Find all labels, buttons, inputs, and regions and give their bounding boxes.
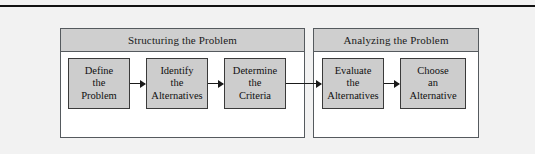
process-box-line: the bbox=[93, 77, 106, 89]
arrow-determine-to-evaluate bbox=[286, 83, 321, 84]
process-box-line: Criteria bbox=[239, 90, 271, 102]
process-box-line: Define bbox=[85, 65, 114, 77]
process-box-define-the-problem: Define the Problem bbox=[68, 58, 130, 109]
process-box-line: Alternatives bbox=[327, 90, 378, 102]
process-box-line: Alternative bbox=[409, 90, 456, 102]
process-box-choose-an-alternative: Choose an Alternative bbox=[400, 58, 466, 109]
process-box-determine-the-criteria: Determine the Criteria bbox=[224, 58, 286, 109]
process-box-identify-the-alternatives: Identify the Alternatives bbox=[146, 58, 208, 109]
panel-header-structuring: Structuring the Problem bbox=[61, 29, 304, 52]
process-box-line: the bbox=[249, 77, 262, 89]
process-box-line: the bbox=[347, 77, 360, 89]
arrow-define-to-identify bbox=[130, 83, 145, 84]
panel-header-analyzing: Analyzing the Problem bbox=[314, 29, 478, 52]
top-divider-rule bbox=[0, 5, 535, 7]
process-box-evaluate-the-alternatives: Evaluate the Alternatives bbox=[322, 58, 384, 109]
process-box-line: Determine bbox=[233, 65, 277, 77]
panel-title-analyzing: Analyzing the Problem bbox=[343, 34, 448, 46]
process-box-line: Identify bbox=[160, 65, 193, 77]
arrow-evaluate-to-choose bbox=[384, 83, 399, 84]
process-box-line: Problem bbox=[81, 90, 117, 102]
process-box-line: Alternatives bbox=[151, 90, 202, 102]
process-flow-diagram: Structuring the Problem Analyzing the Pr… bbox=[0, 18, 535, 154]
process-box-line: Evaluate bbox=[335, 65, 372, 77]
arrow-identify-to-determine bbox=[208, 83, 223, 84]
process-box-line: an bbox=[428, 77, 438, 89]
panel-title-structuring: Structuring the Problem bbox=[128, 34, 237, 46]
process-box-line: the bbox=[171, 77, 184, 89]
process-box-line: Choose bbox=[417, 65, 449, 77]
